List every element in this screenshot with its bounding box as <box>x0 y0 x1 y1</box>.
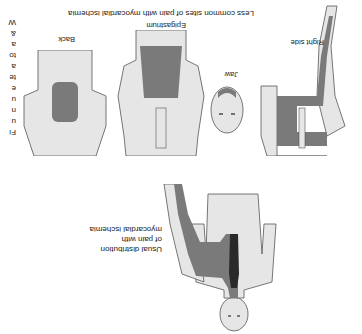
panel-label-back: Back <box>58 35 75 44</box>
main-label-line-2: of pain with <box>90 234 162 244</box>
panel-label-jaw: Jaw <box>225 70 238 79</box>
head-icon <box>220 297 248 331</box>
caption-fragment: u <box>8 94 16 105</box>
main-label: Usual distribution of pain with myocardi… <box>90 224 162 254</box>
caption-fragment: & <box>8 28 16 39</box>
caption-fragment: e <box>8 83 16 94</box>
epigastrium-illustration <box>116 30 206 156</box>
clipped-figure-caption: Fi u n u e te a to a & W <box>8 17 16 138</box>
caption-fragment: to <box>8 50 16 61</box>
panel-label-epigastrium: Epigastrium <box>146 21 186 30</box>
main-label-line-1: Usual distribution <box>90 244 162 254</box>
caption-fragment: a <box>8 39 16 50</box>
caption-fragment: W <box>8 17 16 28</box>
caption-fragment: te <box>8 72 16 83</box>
caption-fragment: n <box>8 105 16 116</box>
caption-fragment: u <box>8 116 16 127</box>
less-common-caption: Less common sites of pain with myocardia… <box>68 9 254 18</box>
panel-label-right-side: Right side <box>291 38 324 47</box>
figure-canvas: Usual distribution of pain with myocardi… <box>0 0 362 334</box>
back-illustration <box>20 50 110 156</box>
jaw-illustration <box>208 84 246 136</box>
caption-fragment: Fi <box>8 127 16 138</box>
main-label-line-3: myocardial ischemia <box>90 224 162 234</box>
caption-fragment: a <box>8 61 16 72</box>
right-side-illustration <box>252 4 347 156</box>
main-figure-illustration <box>162 184 292 334</box>
